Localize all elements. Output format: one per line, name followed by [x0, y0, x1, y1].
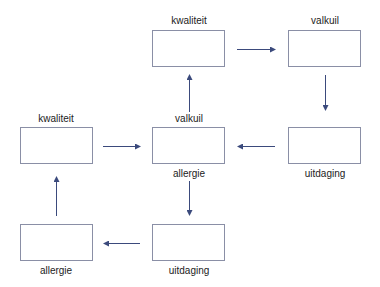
- kernkwadrant-diagram: kwaliteit valkuil kwaliteit valkuil alle…: [0, 0, 380, 287]
- arrows-layer: [0, 0, 380, 287]
